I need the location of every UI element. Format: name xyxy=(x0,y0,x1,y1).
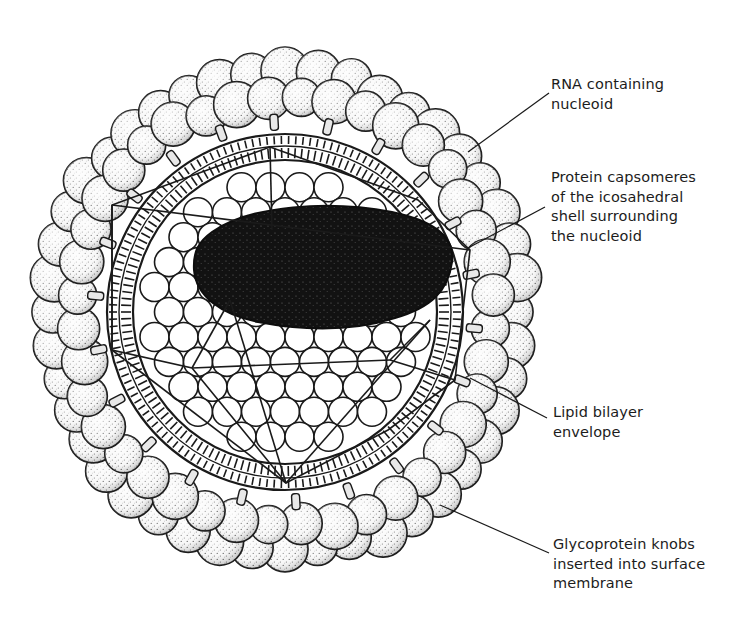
knob-stalk xyxy=(291,493,300,509)
capsomere xyxy=(227,173,256,202)
label-line: of the icosahedral xyxy=(551,188,696,208)
label-line: membrane xyxy=(553,574,705,594)
capsomere xyxy=(285,422,314,451)
leader-line-rna-nucleoid xyxy=(468,93,549,152)
label-line: Protein capsomeres xyxy=(551,168,696,188)
label-line: envelope xyxy=(553,423,643,443)
label-glycoprotein-knobs: Glycoprotein knobs inserted into surface… xyxy=(553,535,705,594)
capsomere xyxy=(314,372,343,401)
capsomere xyxy=(271,397,300,426)
capsomere xyxy=(227,372,256,401)
capsomere xyxy=(169,322,198,351)
label-line: Lipid bilayer xyxy=(553,403,643,423)
capsomere xyxy=(358,397,387,426)
capsomere xyxy=(198,322,227,351)
label-line: shell surrounding xyxy=(551,207,696,227)
capsomere xyxy=(372,322,401,351)
glycoprotein-knob xyxy=(472,274,514,316)
capsomere xyxy=(155,298,184,327)
label-line: Glycoprotein knobs xyxy=(553,535,705,555)
capsomere xyxy=(256,322,285,351)
capsomere xyxy=(184,397,213,426)
label-line: RNA containing xyxy=(551,75,664,95)
capsomere xyxy=(155,347,184,376)
capsomere xyxy=(256,422,285,451)
capsomere xyxy=(343,372,372,401)
label-rna-nucleoid: RNA containing nucleoid xyxy=(551,75,664,114)
knob-stalk xyxy=(270,114,279,130)
capsomere xyxy=(213,347,242,376)
capsomere xyxy=(314,173,343,202)
capsomere xyxy=(227,422,256,451)
capsomere xyxy=(329,397,358,426)
capsomere xyxy=(300,397,329,426)
capsomere xyxy=(140,322,169,351)
label-line: nucleoid xyxy=(551,95,664,115)
capsomere xyxy=(271,347,300,376)
capsomere xyxy=(242,397,271,426)
capsomere xyxy=(169,223,198,252)
capsomere xyxy=(372,372,401,401)
label-line: the nucleoid xyxy=(551,227,696,247)
capsomere xyxy=(198,372,227,401)
capsomere xyxy=(184,198,213,227)
capsomere xyxy=(155,248,184,277)
capsomere xyxy=(285,372,314,401)
knob-stalk xyxy=(87,291,104,300)
label-line: inserted into surface xyxy=(553,555,705,575)
capsomere xyxy=(184,298,213,327)
capsomere xyxy=(184,347,213,376)
capsomere xyxy=(169,273,198,302)
label-lipid-bilayer: Lipid bilayer envelope xyxy=(553,403,643,442)
label-protein-capsomeres: Protein capsomeres of the icosahedral sh… xyxy=(551,168,696,246)
leader-line-glycoprotein-knobs xyxy=(440,505,549,553)
knob-stalk xyxy=(466,324,483,333)
capsomere xyxy=(140,273,169,302)
capsomere xyxy=(285,173,314,202)
